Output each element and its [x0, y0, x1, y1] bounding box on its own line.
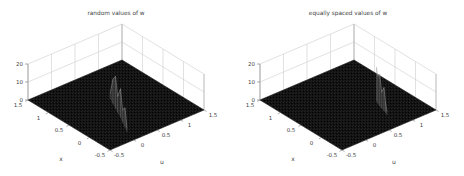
- plot-random-values: 010201.510.50-0.5-0.500.511.5xurandom va…: [0, 0, 232, 176]
- u-tick-mark: [204, 110, 207, 111]
- x-tick-mark: [107, 150, 110, 151]
- z-tick-label: 20: [248, 61, 255, 67]
- x-tick-mark: [298, 125, 301, 126]
- u-tick-mark: [436, 110, 439, 111]
- x-tick-mark: [66, 125, 69, 126]
- u-tick-mark: [157, 130, 160, 131]
- u-tick-mark: [366, 140, 369, 141]
- x-tick-mark: [46, 113, 49, 114]
- x-axis-label: x: [59, 155, 63, 162]
- x-tick-mark: [339, 150, 342, 151]
- u-tick-mark: [134, 140, 137, 141]
- axes-3d: 010201.510.50-0.5-0.500.511.5xurandom va…: [14, 10, 218, 165]
- x-tick-mark: [87, 138, 90, 139]
- z-tick-label: 10: [16, 79, 23, 85]
- u-axis-label: u: [392, 158, 396, 165]
- z-tick-label: 10: [248, 79, 255, 85]
- x-tick-label: 0: [310, 140, 314, 146]
- u-tick-mark: [389, 130, 392, 131]
- u-tick-label: -0.5: [114, 152, 125, 158]
- u-tick-label: 1: [188, 122, 192, 128]
- u-tick-label: 0.5: [394, 132, 403, 138]
- x-tick-label: 0: [78, 140, 82, 146]
- z-tick-label: 20: [16, 61, 23, 67]
- x-tick-label: -0.5: [95, 152, 106, 158]
- u-tick-mark: [110, 150, 113, 151]
- u-tick-label: 1.5: [209, 112, 218, 118]
- plot-random-values-svg: 010201.510.50-0.5-0.500.511.5xurandom va…: [0, 0, 232, 176]
- u-tick-label: -0.5: [346, 152, 357, 158]
- x-tick-label: 0.5: [287, 127, 296, 133]
- u-tick-mark: [413, 120, 416, 121]
- figure-canvas: 010201.510.50-0.5-0.500.511.5xurandom va…: [0, 0, 464, 176]
- x-tick-label: 0.5: [55, 127, 64, 133]
- mesh-surface: [260, 60, 436, 150]
- x-tick-label: 1.5: [14, 102, 23, 108]
- x-tick-label: 1: [269, 115, 273, 121]
- u-tick-label: 0.5: [162, 132, 171, 138]
- x-axis-label: x: [291, 155, 295, 162]
- u-tick-label: 1.5: [441, 112, 450, 118]
- x-tick-label: 1: [37, 115, 41, 121]
- u-axis-label: u: [160, 158, 164, 165]
- u-tick-label: 0: [141, 142, 145, 148]
- axes-3d: 010201.510.50-0.5-0.500.511.5xuequally s…: [246, 10, 450, 165]
- x-tick-label: 1.5: [246, 102, 255, 108]
- u-tick-label: 1: [420, 122, 424, 128]
- u-tick-mark: [342, 150, 345, 151]
- plot-equally-spaced-values-svg: 010201.510.50-0.5-0.500.511.5xuequally s…: [232, 0, 464, 176]
- x-tick-label: -0.5: [327, 152, 338, 158]
- plot-equally-spaced-values: 010201.510.50-0.5-0.500.511.5xuequally s…: [232, 0, 464, 176]
- plot-title: equally spaced values of w: [309, 10, 388, 17]
- x-tick-mark: [319, 138, 322, 139]
- x-tick-mark: [278, 113, 281, 114]
- u-tick-mark: [181, 120, 184, 121]
- u-tick-label: 0: [373, 142, 377, 148]
- plot-title: random values of w: [87, 10, 144, 16]
